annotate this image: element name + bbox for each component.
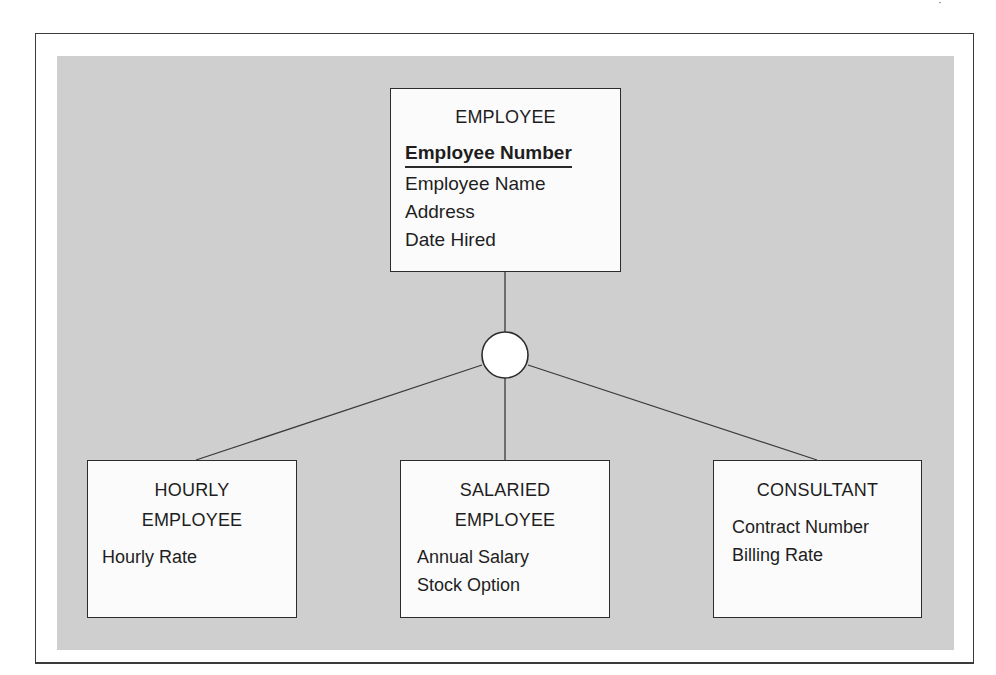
subtype-circle-icon	[482, 332, 528, 378]
entity-consultant: CONSULTANT Contract Number Billing Rate	[713, 460, 922, 618]
connector-hourly	[196, 365, 482, 460]
attribute: Annual Salary	[417, 543, 609, 571]
attribute: Contract Number	[732, 513, 921, 541]
connector-consultant	[528, 365, 817, 460]
attribute: Employee Name	[405, 170, 620, 198]
attribute: Stock Option	[417, 571, 609, 599]
attribute: Address	[405, 198, 620, 226]
entity-name: CONSULTANT	[714, 475, 921, 505]
identifier-attribute: Employee Number	[405, 141, 572, 168]
entity-name: HOURLY EMPLOYEE	[88, 475, 296, 535]
entity-hourly-employee: HOURLY EMPLOYEE Hourly Rate	[87, 460, 297, 618]
entity-name: EMPLOYEE	[391, 105, 620, 129]
entity-name: SALARIED EMPLOYEE	[401, 475, 609, 535]
attribute: Hourly Rate	[102, 543, 296, 571]
entity-salaried-employee: SALARIED EMPLOYEE Annual Salary Stock Op…	[400, 460, 610, 618]
attribute: Billing Rate	[732, 541, 921, 569]
attribute: Date Hired	[405, 226, 620, 254]
entity-employee: EMPLOYEE Employee Number Employee Name A…	[390, 88, 621, 272]
